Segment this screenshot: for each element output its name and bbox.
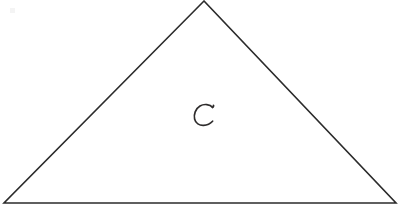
triangle-figure [0,0,408,209]
diagram-canvas: Hand-drawn isosceles triangle with the h… [0,0,408,209]
scan-speck [10,8,15,13]
letter-c-hook [213,105,214,107]
